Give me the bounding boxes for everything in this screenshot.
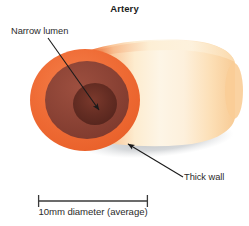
page-title: Artery [0,3,249,14]
label-thick-wall: Thick wall [184,172,224,182]
scale-bar-caption: 10mm diameter (average) [0,206,186,217]
cylinder-far-end [225,63,243,119]
artery-diagram: Artery Narrow lumen Thick wall 10mm diam… [0,0,249,226]
label-narrow-lumen: Narrow lumen [11,26,68,36]
